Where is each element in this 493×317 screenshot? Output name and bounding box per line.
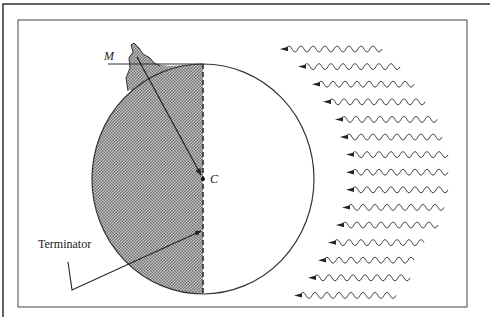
solar-ray-wave [286,46,382,52]
solar-ray-wave [352,152,448,158]
solar-rays [280,46,448,298]
solar-ray-wave [341,116,437,122]
mountain-shape [126,43,203,90]
solar-ray-wave [352,169,448,175]
solar-ray-wave [346,134,442,140]
arrow-head-icon [346,152,354,156]
arrow-head-icon [308,276,316,280]
arrow-head-icon [328,240,336,244]
inner-frame [18,20,467,307]
solar-ray-wave [300,292,396,298]
solar-ray-wave [348,204,444,210]
solar-ray-wave [329,99,425,105]
outer-frame [3,4,490,317]
arrow-head-icon [340,135,348,139]
arrow-head-icon [335,117,343,121]
label-terminator: Terminator [38,237,91,251]
arrow-head-icon [318,258,326,262]
arrow-head-icon [323,100,331,104]
center-point [201,177,205,181]
label-c: C [210,172,219,186]
arrow-head-icon [346,188,354,192]
solar-ray-wave [324,257,414,263]
arrow-head-icon [298,64,306,68]
solar-ray-wave [352,187,448,193]
arrow-head-icon [312,82,320,86]
arrow-head-icon [336,223,344,227]
solar-ray-wave [342,222,438,228]
solar-ray-wave [334,240,424,246]
arrow-head-icon [342,205,350,209]
arrow-head-icon [280,47,288,51]
diagram-canvas: M C Terminator [0,0,493,317]
solar-ray-wave [314,275,410,281]
solar-ray-wave [304,64,400,70]
solar-ray-wave [318,81,414,87]
arrow-head-icon [294,293,302,297]
label-m: M [103,49,115,63]
arrow-head-icon [346,170,354,174]
